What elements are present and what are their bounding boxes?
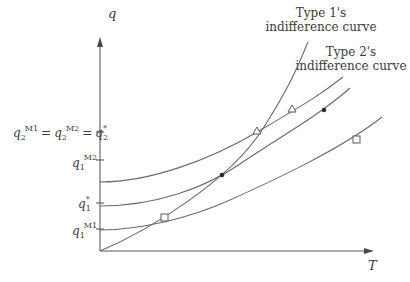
type1-curve-label-line2: indifference curve — [266, 20, 377, 34]
type2-curve-label-line1: Type 2's — [326, 45, 376, 59]
curve-labels: Type 1's indifference curve Type 2's ind… — [266, 6, 407, 73]
tick-label-q1-star: q*1 — [78, 195, 91, 213]
square-marker-low — [161, 214, 168, 221]
indifference-curve-diagram: q T q2M1=q2M2=q*2 q1M2 q*1 q1M1 Type 1's… — [0, 0, 410, 282]
y-axis-label: q — [108, 6, 116, 21]
tick-label-q1-M1: q1M1 — [72, 221, 97, 240]
x-axis-label: T — [368, 258, 378, 273]
square-marker-upper — [353, 136, 360, 143]
type2-curve-label-line2: indifference curve — [296, 59, 407, 73]
type2-indifference-curve-upper — [100, 77, 343, 182]
y-axis-arrow-icon — [97, 37, 103, 47]
dot-marker-mid — [220, 173, 225, 178]
type2-indifference-curve-middle — [100, 88, 350, 206]
type1-curve-label-line1: Type 1's — [296, 6, 346, 20]
x-axis-arrow-icon — [364, 248, 374, 254]
tick-label-q1-M2: q1M2 — [72, 153, 97, 172]
triangle-marker-upper — [288, 105, 296, 112]
type2-indifference-curve-lower — [100, 117, 382, 230]
dot-marker-upper — [322, 108, 327, 113]
tick-label-q2: q2M1=q2M2=q*2 — [13, 124, 108, 142]
type1-indifference-curve — [100, 42, 308, 251]
y-tick-labels: q2M1=q2M2=q*2 q1M2 q*1 q1M1 — [13, 124, 108, 240]
